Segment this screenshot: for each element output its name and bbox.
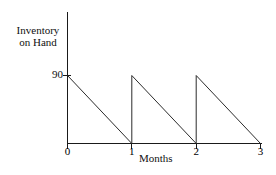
y-axis-title-line-1: Inventory: [9, 24, 67, 36]
x-tick-label-3: 3: [254, 145, 268, 157]
x-tick-label-0: 0: [61, 145, 75, 157]
y-axis-title-line-2: on Hand: [9, 36, 67, 48]
inventory-sawtooth-series: [68, 76, 261, 144]
y-axis-title: Inventory on Hand: [9, 24, 67, 49]
x-tick-label-1: 1: [125, 145, 139, 157]
inventory-chart: Inventory on Hand 90 0 1 2 3 Months: [0, 0, 276, 175]
y-tick-label-90: 90: [43, 68, 63, 80]
x-tick-label-2: 2: [189, 145, 203, 157]
x-axis-title: Months: [139, 152, 173, 164]
